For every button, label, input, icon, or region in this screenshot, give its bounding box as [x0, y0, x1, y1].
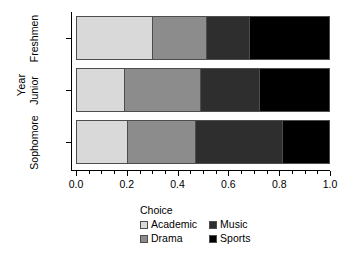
- x-tick-minor: [140, 171, 141, 174]
- bar-junior: [76, 68, 330, 112]
- x-tick-minor: [254, 171, 255, 174]
- x-tick-major: [228, 171, 229, 176]
- y-tick: [66, 38, 71, 39]
- bar-segment-junior-music: [200, 68, 258, 112]
- x-tick-minor: [101, 171, 102, 174]
- x-tick-minor: [216, 171, 217, 174]
- legend: Choice AcademicDrama MusicSports: [140, 204, 290, 245]
- x-tick-minor: [89, 171, 90, 174]
- bar-segment-sophomore-drama: [127, 120, 196, 164]
- legend-label-drama: Drama: [151, 232, 183, 245]
- y-tick-label-sophomore: Sophomore: [28, 113, 41, 173]
- x-tick-minor: [292, 171, 293, 174]
- legend-swatch-academic: [140, 221, 148, 229]
- x-tick-minor: [165, 171, 166, 174]
- bar-segment-junior-drama: [124, 68, 200, 112]
- legend-swatch-music: [209, 221, 217, 229]
- bar-segment-freshmen-music: [206, 16, 249, 60]
- x-tick-major: [127, 171, 128, 176]
- legend-swatch-drama: [140, 235, 148, 243]
- legend-column-left: AcademicDrama: [140, 218, 197, 245]
- bar-segment-freshmen-academic: [76, 16, 152, 60]
- x-tick-minor: [203, 171, 204, 174]
- bar-segment-sophomore-music: [195, 120, 281, 164]
- bar-sophomore: [76, 120, 330, 164]
- x-tick-label: 1.0: [310, 178, 350, 191]
- legend-item-sports: Sports: [209, 232, 250, 245]
- x-tick-label: 0.2: [107, 178, 147, 191]
- y-tick: [66, 142, 71, 143]
- legend-label-academic: Academic: [151, 218, 197, 231]
- y-axis-line: [71, 12, 72, 170]
- x-tick-major: [178, 171, 179, 176]
- bar-segment-freshmen-sports: [249, 16, 330, 60]
- legend-column-right: MusicSports: [209, 218, 250, 245]
- legend-label-music: Music: [220, 218, 247, 231]
- bar-segment-sophomore-sports: [282, 120, 330, 164]
- x-tick-minor: [317, 171, 318, 174]
- x-tick-major: [330, 171, 331, 176]
- bar-segment-junior-academic: [76, 68, 124, 112]
- x-tick-major: [279, 171, 280, 176]
- bar-segment-sophomore-academic: [76, 120, 127, 164]
- x-tick-major: [76, 171, 77, 176]
- legend-item-academic: Academic: [140, 218, 197, 231]
- x-tick-minor: [267, 171, 268, 174]
- legend-title: Choice: [140, 204, 290, 217]
- legend-item-drama: Drama: [140, 232, 197, 245]
- x-tick-minor: [190, 171, 191, 174]
- legend-label-sports: Sports: [220, 232, 250, 245]
- bar-segment-junior-sports: [259, 68, 330, 112]
- x-tick-minor: [241, 171, 242, 174]
- legend-swatch-sports: [209, 235, 217, 243]
- x-tick-label: 0.6: [208, 178, 248, 191]
- bar-segment-freshmen-drama: [152, 16, 205, 60]
- x-tick-label: 0.0: [56, 178, 96, 191]
- x-tick-minor: [152, 171, 153, 174]
- y-tick-label-junior: Junior: [28, 61, 41, 121]
- stacked-bar-chart: Year FreshmenJuniorSophomore 0.00.20.40.…: [0, 0, 354, 254]
- x-tick-minor: [114, 171, 115, 174]
- x-tick-label: 0.8: [259, 178, 299, 191]
- y-axis-title: Year: [14, 0, 28, 170]
- x-tick-minor: [305, 171, 306, 174]
- y-tick: [66, 90, 71, 91]
- y-tick-label-freshmen: Freshmen: [28, 9, 41, 69]
- bar-freshmen: [76, 16, 330, 60]
- legend-item-music: Music: [209, 218, 250, 231]
- x-tick-label: 0.4: [158, 178, 198, 191]
